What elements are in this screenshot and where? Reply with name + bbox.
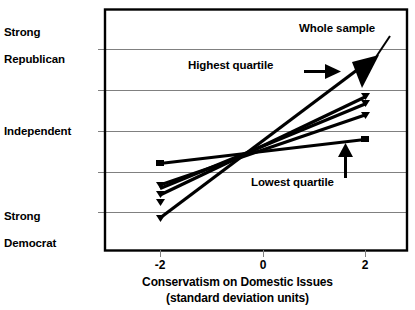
marker-triangle-left <box>156 215 165 222</box>
data-series-group <box>160 64 365 218</box>
annotation-whole-sample: Whole sample <box>299 22 375 34</box>
xtick-label-minus2: -2 <box>140 258 180 272</box>
marker-square-right <box>361 136 369 142</box>
lowest-quartile-arrow-head <box>338 143 353 157</box>
xaxis-title-line1: Conservatism on Domestic Issues <box>30 275 415 289</box>
marker-square-left <box>156 160 164 166</box>
annotation-highest-quartile: Highest quartile <box>188 59 273 71</box>
whole-sample-arrow <box>352 36 390 88</box>
series-line-highest-quartile <box>160 64 365 218</box>
whole-sample-arrow-head <box>352 55 379 88</box>
xtick-label-2: 2 <box>345 258 385 272</box>
xtick-label-0: 0 <box>243 258 283 272</box>
annotation-lowest-quartile: Lowest quartile <box>251 176 334 188</box>
chart-figure: Strong Republican Independent Strong Dem… <box>0 0 415 310</box>
highest-quartile-arrow <box>304 64 341 79</box>
plot-frame <box>105 10 407 251</box>
xaxis-title-line2: (standard deviation units) <box>30 291 415 305</box>
marker-triangle-left <box>156 199 165 206</box>
highest-quartile-arrow-head <box>325 64 341 79</box>
